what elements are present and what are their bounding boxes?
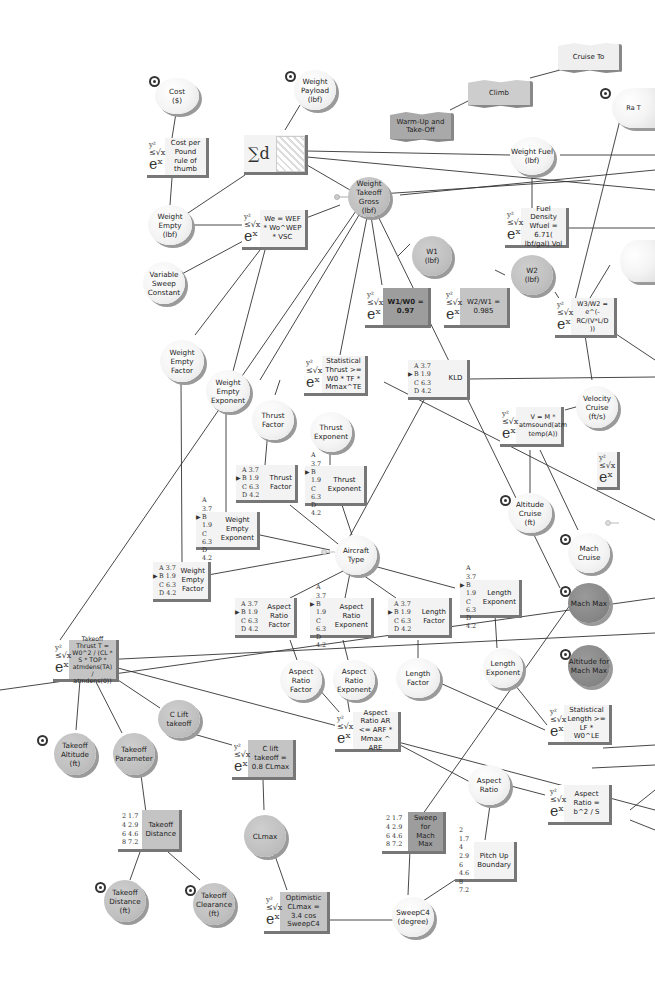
number-table-icon: 2 1.74 2.96 4.68 7.2 — [455, 842, 474, 879]
table-pitch-up-boundary[interactable]: 2 1.74 2.96 4.68 7.2 Pitch Up Boundary — [455, 842, 517, 882]
node-takeoff-altitude[interactable]: Takeoff Altitude (ft) — [54, 733, 96, 775]
node-weight-takeoff-gross[interactable]: Weight Takeoff Gross (lbf) — [348, 177, 390, 217]
table-weight-empty-factor[interactable]: A 3.7▶B 1.9C 6.3D 4.2 Weight Empty Facto… — [153, 562, 211, 602]
node-thrust-exponent[interactable]: Thrust Exponent — [310, 412, 352, 452]
node-takeoff-parameter[interactable]: Takeoff Parameter — [113, 733, 155, 775]
node-mach-max[interactable]: Mach Max — [568, 583, 610, 623]
formula-icon: y²≤√xeˣ — [147, 138, 165, 175]
formula-w3-w2[interactable]: y²≤√xeˣ W3/W2 = e^(-RC/(V*L/D )) — [555, 298, 617, 338]
node-mach-cruise[interactable]: Mach Cruise — [568, 533, 610, 573]
letter-table-icon: A 3.7▶B 1.9C 6.3D 4.2 — [236, 466, 267, 499]
objective-target-icon — [37, 735, 48, 746]
node-variable-sweep-constant[interactable]: Variable Sweep Constant — [143, 262, 185, 304]
table-kld[interactable]: A 3.7▶B 1.9C 6.3D 4.2 KLD — [408, 360, 470, 400]
node-weight-empty-exponent[interactable]: Weight Empty Exponent — [206, 370, 250, 412]
node-sweepc4[interactable]: SweepC4 (degree) — [392, 897, 434, 937]
formula-c-lift-takeoff[interactable]: y²≤√xeˣ C lift takeoff = 0.8 CLmax — [232, 740, 296, 780]
node-clmax[interactable]: CLmax — [244, 815, 286, 857]
table-weight-empty-exponent[interactable]: A 3.7▶B 1.9C 6.3D 4.2 Weight Empty Expon… — [196, 512, 260, 550]
objective-target-icon — [600, 88, 611, 99]
node-length-factor[interactable]: Length Factor — [396, 658, 440, 698]
node-aircraft-type[interactable]: Aircraft Type — [335, 535, 377, 575]
node-weight-fuel[interactable]: Weight Fuel (lbf) — [510, 137, 554, 175]
formula-icon: y²≤√xeˣ — [264, 892, 280, 931]
node-altitude-cruise[interactable]: Altitude Cruise (ft) — [508, 493, 552, 533]
formula-velocity[interactable]: y²≤√xeˣ V = M * atmsound(atm temp(A)) — [500, 407, 564, 447]
mission-step-warmup-takeoff[interactable]: Warm-Up and Take-Off — [390, 112, 454, 142]
node-length-exponent[interactable]: Length Exponent — [483, 648, 523, 688]
formula-icon: y²≤√xeˣ — [500, 407, 516, 444]
formula-icon: y²≤√xeˣ — [304, 356, 322, 393]
formula-icon: y²≤√xeˣ — [597, 452, 613, 487]
formula-we[interactable]: y²≤√xeˣ We = WEF * Wo^WEP * VSC — [242, 210, 308, 250]
formula-w2-w1[interactable]: y²≤√xeˣ W2/W1 = 0.985 — [444, 288, 510, 328]
node-weight-payload[interactable]: Weight Payload (lbf) — [294, 70, 336, 110]
table-aspect-ratio-exponent[interactable]: A 3.7▶B 1.9C 6.3D 4.2 Aspect Ratio Expon… — [310, 598, 374, 638]
formula-partial-right[interactable]: y²≤√xeˣ — [597, 452, 620, 490]
node-aspect-ratio[interactable]: Aspect Ratio — [468, 765, 510, 805]
table-length-factor[interactable]: A 3.7▶B 1.9C 6.3D 4.2 Length Factor — [388, 598, 452, 638]
formula-icon: y²≤√xeˣ — [548, 705, 564, 742]
letter-table-icon: A 3.7▶B 1.9C 6.3D 4.2 — [460, 564, 480, 631]
key-icon — [605, 520, 619, 526]
letter-table-icon: A 3.7▶B 1.9C 6.3D 4.2 — [388, 600, 419, 633]
node-velocity-cruise[interactable]: Velocity Cruise (ft/s) — [576, 386, 618, 428]
formula-w1-w0[interactable]: y²≤√xeˣ W1/W0 = 0.97 — [365, 288, 431, 328]
objective-target-icon — [285, 71, 296, 82]
formula-icon: y²≤√xeˣ — [444, 288, 460, 325]
formula-icon: y²≤√xeˣ — [505, 208, 521, 245]
formula-icon: y²≤√xeˣ — [232, 740, 248, 777]
formula-aspect-ratio-b2[interactable]: y²≤√xeˣ Aspect Ratio = b^2 / S — [548, 785, 612, 825]
influence-diagram-canvas: Climb Cruise To Warm-Up and Take-Off Cos… — [0, 0, 655, 1002]
letter-table-icon: A 3.7▶B 1.9C 6.3D 4.2 — [235, 600, 264, 633]
letter-table-icon: A 3.7▶B 1.9C 6.3D 4.2 — [305, 451, 325, 518]
node-takeoff-distance[interactable]: Takeoff Distance (ft) — [104, 880, 146, 922]
formula-icon: y²≤√xeˣ — [53, 640, 69, 679]
node-weight-empty[interactable]: Weight Empty (lbf) — [148, 205, 192, 245]
formula-aspect-ratio[interactable]: y²≤√xeˣ Aspect Ratio AR <= ARF * Mmax ^ … — [335, 712, 401, 752]
number-table-icon: 2 1.74 2.96 4.68 7.2 — [382, 812, 408, 851]
sum-decision-node[interactable]: ∑d — [244, 135, 308, 175]
mission-step-climb[interactable]: Climb — [468, 80, 533, 108]
formula-cost-per-pound[interactable]: y²≤√xeˣ Cost per Pound rule of thumb — [147, 138, 209, 178]
node-weight-empty-factor[interactable]: Weight Empty Factor — [160, 340, 204, 382]
sum-icon: ∑d — [244, 144, 270, 163]
node-thrust-factor[interactable]: Thrust Factor — [252, 400, 294, 440]
formula-icon: y²≤√xeˣ — [365, 288, 383, 325]
table-length-exponent[interactable]: A 3.7▶B 1.9C 6.3D 4.2 Length Exponent — [460, 580, 522, 618]
table-sweep-mach-max[interactable]: 2 1.74 2.96 4.68 7.2 Sweep for Mach Max — [382, 812, 446, 854]
node-w1[interactable]: W1 (lbf) — [412, 236, 452, 276]
node-cost[interactable]: Cost ($) — [155, 78, 199, 114]
chart-thumbnail-icon — [276, 136, 305, 172]
formula-statistical-thrust[interactable]: y²≤√xeˣ Statistical Thrust >= W0 * TF * … — [304, 356, 368, 396]
letter-table-icon: A 3.7▶B 1.9C 6.3D 4.2 — [153, 564, 178, 597]
key-icon — [321, 549, 335, 555]
node-w2[interactable]: W2 (lbf) — [511, 255, 553, 295]
letter-table-icon: A 3.7▶B 1.9C 6.3D 4.2 — [310, 583, 332, 650]
node-partial-right[interactable] — [620, 240, 655, 282]
formula-icon: y²≤√xeˣ — [242, 210, 260, 247]
formula-icon: y²≤√xeˣ — [555, 298, 571, 335]
node-takeoff-clearance[interactable]: Takeoff Clearance (ft) — [193, 883, 235, 925]
letter-table-icon: A 3.7▶B 1.9C 6.3D 4.2 — [196, 496, 218, 563]
node-c-lift-takeoff[interactable]: C Lift takeoff — [158, 700, 200, 738]
number-table-icon: 2 1.74 2.96 4.68 7.2 — [118, 810, 142, 849]
formula-icon: y²≤√xeˣ — [335, 712, 353, 749]
table-thrust-exponent[interactable]: A 3.7▶B 1.9C 6.3D 4.2 Thrust Exponent — [305, 466, 367, 506]
key-icon — [334, 194, 348, 200]
node-aspect-ratio-exponent[interactable]: Aspect Ratio Exponent — [333, 660, 375, 700]
mission-step-cruise-to[interactable]: Cruise To — [558, 43, 622, 73]
node-aspect-ratio-factor[interactable]: Aspect Ratio Factor — [280, 660, 322, 700]
node-altitude-mach-max[interactable]: Altitude for Mach Max — [568, 645, 610, 687]
formula-fuel-density[interactable]: y²≤√xeˣ Fuel Density Wfuel = 6.71( lbf/g… — [505, 208, 569, 248]
table-aspect-ratio-factor[interactable]: A 3.7▶B 1.9C 6.3D 4.2 Aspect Ratio Facto… — [235, 598, 297, 638]
node-range-partial[interactable]: Ra T — [612, 88, 655, 128]
formula-optimistic-clmax[interactable]: y²≤√xeˣ Optimistic CLmax = 3.4 cos Sweep… — [264, 892, 330, 934]
letter-table-icon: A 3.7▶B 1.9C 6.3D 4.2 — [408, 362, 444, 395]
formula-icon: y²≤√xeˣ — [548, 785, 564, 822]
formula-statistical-length[interactable]: y²≤√xeˣ Statistical Length >= LF * W0^LE — [548, 705, 612, 745]
formula-takeoff-thrust[interactable]: y²≤√xeˣ Takeoff Thrust T = W0^2 / (CL * … — [53, 640, 119, 682]
table-thrust-factor[interactable]: A 3.7▶B 1.9C 6.3D 4.2 Thrust Factor — [236, 465, 298, 503]
objective-target-icon — [95, 882, 106, 893]
table-takeoff-distance[interactable]: 2 1.74 2.96 4.68 7.2 Takeoff Distance — [118, 810, 182, 852]
